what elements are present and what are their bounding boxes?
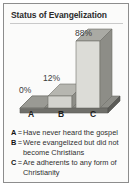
legend-item-b: B = Were evangelized but did not [11, 138, 127, 148]
legend-text-b: Were evangelized but did not [23, 138, 127, 148]
data-label-c: 88% [75, 28, 92, 38]
legend-text-a: Have never heard the gospel [23, 128, 127, 138]
bar-c-side [100, 29, 112, 108]
legend-item-c: C = Are adherents to any form of [11, 158, 127, 168]
chart-plot-area: 0% 12% 88% A B C [10, 24, 124, 126]
legend-text-c: Are adherents to any form of [23, 158, 127, 168]
chart-panel: Status of Evangelization 0% 12% 88% A B … [3, 3, 129, 183]
bar-b-front [48, 96, 72, 108]
legend-item-a: A = Have never heard the gospel [11, 128, 127, 138]
category-label-c: C [90, 109, 96, 119]
legend-text-b-cont: become Christians [11, 148, 127, 158]
data-label-b: 12% [43, 73, 60, 83]
chart-title: Status of Evangelization [11, 10, 107, 20]
chart-legend: A = Have never heard the gospel B = Were… [11, 128, 127, 178]
legend-text-c-cont: Christianity [11, 168, 127, 178]
data-label-a: 0% [19, 85, 31, 95]
bar-c-front [76, 41, 100, 108]
category-label-b: B [58, 109, 64, 119]
category-label-a: A [28, 109, 34, 119]
